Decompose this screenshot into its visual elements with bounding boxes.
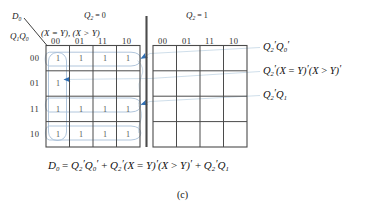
left-map-row-label-3: 10 xyxy=(30,130,40,139)
left-map-cell-r0c1[interactable]: 1 xyxy=(79,54,83,63)
leader-line-1 xyxy=(141,48,260,59)
left-map-cell-r0c2[interactable]: 1 xyxy=(103,54,107,63)
column-header-expression-text: (X = Y), (X > Y) xyxy=(41,28,100,38)
group-wrap-connector-bottom xyxy=(138,106,141,134)
right-map-condition-value: 1 xyxy=(204,11,208,20)
left-map-cell-r2c3[interactable]: 1 xyxy=(126,105,130,114)
left-map-condition-eq: = xyxy=(93,11,102,20)
row-var-q0-sub: 0 xyxy=(26,36,29,42)
left-map-cell-r0c0[interactable]: 1 xyxy=(56,54,60,63)
figure-caption: (c) xyxy=(177,190,188,200)
right-map-col-label-0: 00 xyxy=(158,37,168,46)
left-map-col-label-2: 11 xyxy=(98,37,107,46)
left-map-condition-value: 0 xyxy=(102,11,106,20)
group-wrap-connector-top xyxy=(138,61,143,105)
left-map-cell-r3c3[interactable]: 1 xyxy=(126,130,130,139)
left-map-condition: Q2 = 0 xyxy=(84,11,106,21)
right-map-col-label-3: 10 xyxy=(229,37,239,46)
annotation-q2p-q1: Q2′Q1 xyxy=(263,88,287,102)
column-header-expression: (X = Y), (X > Y) xyxy=(41,29,100,38)
left-map-cell-r3c1[interactable]: 1 xyxy=(79,130,83,139)
annotation-q2p-xeqy-xgty: Q2′(X = Y)′(X > Y)′ xyxy=(263,64,341,78)
output-variable-subscript: 0 xyxy=(19,16,22,22)
kmap-figure: D0 Q1Q0 (X = Y), (X > Y) Q2 = 0 Q2 = 1 0… xyxy=(0,0,369,210)
left-map-cell-r2c0[interactable]: 1 xyxy=(56,105,60,114)
left-map-cell-r0c3[interactable]: 1 xyxy=(126,54,130,63)
left-map-cell-r3c2[interactable]: 1 xyxy=(103,130,107,139)
leader-line-3 xyxy=(141,96,260,105)
leader-line-2 xyxy=(64,72,260,80)
row-variable-label: Q1Q0 xyxy=(10,32,29,42)
right-map-col-label-1: 01 xyxy=(182,37,192,46)
right-map-condition: Q2 = 1 xyxy=(186,11,208,21)
left-map-cell-r3c0[interactable]: 1 xyxy=(56,130,60,139)
left-map-col-label-1: 01 xyxy=(75,37,85,46)
group-loop-column0 xyxy=(49,53,67,141)
left-map-cell-r2c2[interactable]: 1 xyxy=(103,105,107,114)
left-map-row-label-2: 11 xyxy=(30,105,39,114)
right-map-condition-eq: = xyxy=(195,11,204,20)
left-map-row-label-1: 01 xyxy=(30,79,40,88)
left-map-col-label-3: 10 xyxy=(122,37,132,46)
right-map-col-label-2: 11 xyxy=(205,37,214,46)
boolean-equation: D0 = Q2′Q0′ + Q2′(X = Y)′(X > Y)′ + Q2′Q… xyxy=(48,159,229,173)
left-map-row-label-0: 00 xyxy=(30,54,40,63)
left-map-cell-r2c1[interactable]: 1 xyxy=(79,105,83,114)
annotation-q2p-q0p: Q2′Q0′ xyxy=(263,40,289,54)
output-variable-label: D0 xyxy=(12,12,21,22)
left-map-cell-r1c0[interactable]: 1 xyxy=(56,79,60,88)
right-map-grid xyxy=(153,46,247,148)
left-map-col-label-0: 00 xyxy=(51,37,61,46)
